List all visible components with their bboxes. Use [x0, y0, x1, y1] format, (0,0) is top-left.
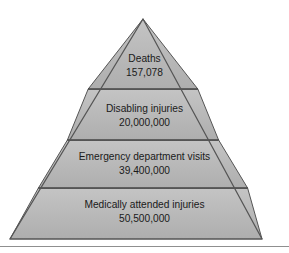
- pyramid-tier-third: [38, 140, 247, 188]
- pyramid-tier-top: [88, 19, 198, 89]
- pyramid-graphic: [0, 0, 289, 253]
- bottom-divider-rule: [0, 246, 289, 247]
- injury-pyramid-figure: Deaths 157,078 Disabling injuries 20,000…: [0, 0, 289, 253]
- pyramid-tier-second: [67, 89, 218, 140]
- pyramid-tier-bottom: [10, 188, 262, 239]
